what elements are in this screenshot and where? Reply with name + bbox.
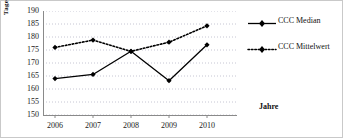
solid-line-diamond-marker-icon — [247, 15, 277, 26]
x-axis-title: Jahre — [259, 102, 278, 111]
data-point-marker — [90, 38, 95, 43]
y-axis-tick-label: 170 — [5, 59, 39, 67]
legend-label: CCC Mittelwert — [278, 42, 330, 51]
y-axis-tick-label: 175 — [5, 46, 39, 54]
y-axis-tick-label: 165 — [5, 72, 39, 80]
y-axis-tick-label: 160 — [5, 85, 39, 93]
y-axis-tick-label: 150 — [5, 111, 39, 119]
legend-item-ccc-median[interactable]: CCC Median — [247, 14, 342, 27]
data-point-marker — [52, 76, 57, 81]
legend-item-ccc-mittelwert[interactable]: CCC Mittelwert — [247, 40, 342, 53]
y-axis-tick-label: 190 — [5, 7, 39, 15]
dotted-line-diamond-marker-icon — [247, 41, 277, 52]
x-axis-tick-label: 2010 — [187, 121, 227, 130]
legend-label: CCC Median — [278, 16, 320, 25]
chart-legend: CCC Median CCC Mittelwert — [247, 14, 342, 66]
chart-figure: Tage 190185180175170165160155150 2006200… — [0, 0, 343, 138]
x-axis-tick-label: 2009 — [149, 121, 189, 130]
data-point-marker — [52, 45, 57, 50]
x-axis-tick-label: 2007 — [73, 121, 113, 130]
plot-area — [43, 11, 237, 115]
series-line — [55, 26, 207, 51]
y-axis-tick-label: 180 — [5, 33, 39, 41]
data-point-marker — [166, 40, 171, 45]
y-axis-tick-label: 185 — [5, 20, 39, 28]
x-axis-tick-label: 2008 — [111, 121, 151, 130]
x-axis-tick-label: 2006 — [35, 121, 75, 130]
y-axis-tick-label: 155 — [5, 98, 39, 106]
y-axis-tick-labels: 190185180175170165160155150 — [5, 1, 39, 137]
